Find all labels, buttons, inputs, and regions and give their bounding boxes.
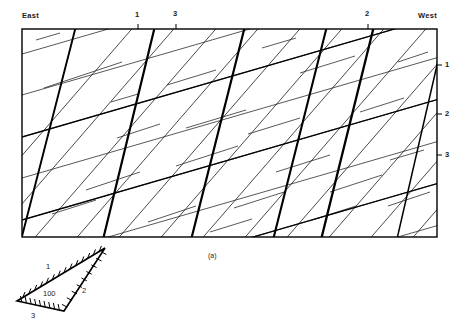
east-label: East — [22, 12, 39, 20]
inset-label-3: 3 — [31, 312, 35, 320]
west-label: West — [418, 12, 437, 20]
top-fault-label-3: 3 — [173, 10, 177, 18]
inset-label-1: 1 — [46, 263, 50, 271]
right-joint-label-3: 3 — [445, 151, 449, 159]
top-fault-label-1: 1 — [135, 11, 139, 19]
right-joint-label-2: 2 — [445, 110, 449, 118]
triangle-inset-drawing — [0, 0, 461, 330]
inset-label-2: 2 — [82, 287, 86, 295]
figure-caption: (a) — [208, 252, 217, 259]
top-fault-label-2: 2 — [365, 10, 369, 18]
right-joint-label-1: 1 — [445, 61, 449, 69]
figure-canvas: East West 1 3 2 1 2 3 (a) 1 2 3 100 — [0, 0, 461, 330]
inset-value-100: 100 — [43, 290, 56, 298]
